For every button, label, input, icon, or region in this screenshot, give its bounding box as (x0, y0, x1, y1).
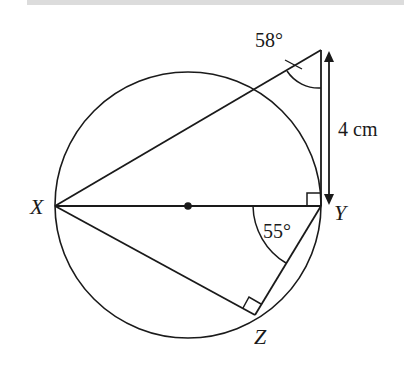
right-angle-marker-y (307, 193, 321, 206)
right-angle-marker-z (243, 297, 261, 308)
arrow-head-up-icon (324, 51, 334, 62)
apex-angle-tick (285, 60, 302, 69)
center-point (184, 202, 192, 210)
line-x-z (55, 206, 255, 315)
point-label-y: Y (334, 200, 349, 225)
point-label-z: Z (254, 324, 267, 349)
line-x-apex (55, 50, 321, 206)
geometry-diagram: 58° 4 cm X Y Z 55° (0, 0, 404, 368)
angle-label-y: 55° (263, 220, 291, 242)
arrow-head-down-icon (324, 194, 334, 205)
angle-label-apex: 58° (255, 29, 283, 51)
measurement-label: 4 cm (338, 118, 378, 140)
angle-arc-apex (287, 71, 321, 88)
point-label-x: X (29, 194, 45, 219)
